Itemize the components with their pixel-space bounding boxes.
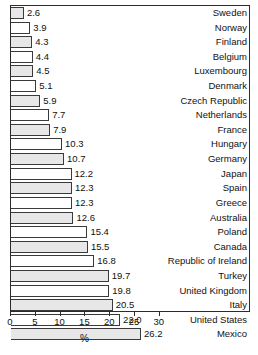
bar [11, 226, 87, 238]
category-label: Norway [215, 21, 247, 35]
bar-value-label: 12.3 [75, 196, 94, 210]
bar [11, 80, 36, 92]
category-label: Netherlands [196, 108, 247, 122]
bar [11, 255, 94, 267]
bar-chart: 2.6Sweden3.9Norway4.3Finland4.4Belgium4.… [0, 0, 258, 355]
category-label: Czech Republic [180, 94, 247, 108]
bar-value-label: 19.7 [112, 269, 131, 283]
bar [11, 65, 33, 77]
bar-value-label: 12.2 [75, 167, 94, 181]
axis-tick-label: 10 [48, 316, 72, 328]
bar [11, 95, 40, 107]
bar-row: 12.3Spain [11, 181, 249, 196]
x-axis: 051015202530 [10, 312, 250, 332]
category-label: Hungary [211, 137, 247, 151]
bar-value-label: 3.9 [33, 21, 46, 35]
bar [11, 241, 88, 253]
axis-tick-label: 20 [97, 316, 121, 328]
bar-value-label: 19.8 [112, 284, 131, 298]
bar [11, 109, 49, 121]
bar-row: 10.3Hungary [11, 137, 249, 152]
bar [11, 138, 62, 150]
bar-row: 16.8Republic of Ireland [11, 254, 249, 269]
bar-row: 3.9Norway [11, 21, 249, 36]
category-label: Finland [216, 35, 247, 49]
bar-row: 12.6Australia [11, 211, 249, 226]
axis-tick-label: 15 [72, 316, 96, 328]
category-label: Luxembourg [194, 64, 247, 78]
bar-value-label: 4.5 [36, 64, 49, 78]
bar-row: 19.7Turkey [11, 269, 249, 284]
axis-tick-label: 25 [122, 316, 146, 328]
bar [11, 7, 24, 19]
axis-tick-label: 30 [147, 316, 171, 328]
bar-row: 12.2Japan [11, 167, 249, 182]
category-label: Turkey [218, 269, 247, 283]
bar [11, 285, 109, 297]
plot-area: 2.6Sweden3.9Norway4.3Finland4.4Belgium4.… [10, 5, 250, 312]
bar-value-label: 5.1 [39, 79, 52, 93]
bar-value-label: 10.7 [67, 152, 86, 166]
bar [11, 153, 64, 165]
bar [11, 197, 72, 209]
category-label: Denmark [208, 79, 247, 93]
bar-value-label: 7.9 [53, 123, 66, 137]
bar-row: 15.4Poland [11, 225, 249, 240]
category-label: Greece [216, 196, 247, 210]
bar-value-label: 20.5 [116, 298, 135, 312]
bar-row: 5.1Denmark [11, 79, 249, 94]
bar [11, 182, 72, 194]
category-label: France [217, 123, 247, 137]
bar-row: 4.5Luxembourg [11, 64, 249, 79]
bar-row: 2.6Sweden [11, 6, 249, 21]
category-label: Italy [230, 298, 247, 312]
bar-value-label: 2.6 [27, 6, 40, 20]
bar-row: 15.5Canada [11, 240, 249, 255]
bar-row: 7.9France [11, 123, 249, 138]
bar-row: 20.5Italy [11, 298, 249, 313]
category-label: Republic of Ireland [168, 254, 247, 268]
bar [11, 212, 73, 224]
bar-row: 4.3Finland [11, 35, 249, 50]
category-label: Australia [210, 211, 247, 225]
bar [11, 299, 113, 311]
bar-row: 19.8United Kingdom [11, 284, 249, 299]
category-label: United Kingdom [179, 284, 247, 298]
axis-tick-label: 5 [23, 316, 47, 328]
category-label: Germany [208, 152, 247, 166]
category-label: Japan [221, 167, 247, 181]
bar-value-label: 4.4 [36, 50, 49, 64]
bar-value-label: 10.3 [65, 137, 84, 151]
category-label: Spain [223, 181, 247, 195]
bar-value-label: 4.3 [35, 35, 48, 49]
category-label: Sweden [213, 6, 247, 20]
x-axis-title: % [10, 333, 159, 344]
bar-row: 4.4Belgium [11, 50, 249, 65]
bar-row: 7.7Netherlands [11, 108, 249, 123]
bar [11, 36, 32, 48]
category-label: Poland [217, 225, 247, 239]
bar [11, 168, 72, 180]
category-label: Belgium [213, 50, 247, 64]
category-label: Canada [214, 240, 247, 254]
bar [11, 22, 30, 34]
bar-value-label: 5.9 [43, 94, 56, 108]
bar-value-label: 15.5 [91, 240, 110, 254]
bar [11, 270, 109, 282]
bar-row: 12.3Greece [11, 196, 249, 211]
bar [11, 51, 33, 63]
bar-value-label: 12.6 [76, 211, 95, 225]
bar-value-label: 12.3 [75, 181, 94, 195]
bar-row: 10.7Germany [11, 152, 249, 167]
bar [11, 124, 50, 136]
axis-tick-label: 0 [0, 316, 22, 328]
bar-value-label: 7.7 [52, 108, 65, 122]
bar-value-label: 16.8 [97, 254, 116, 268]
bar-row: 5.9Czech Republic [11, 94, 249, 109]
bar-value-label: 15.4 [90, 225, 109, 239]
